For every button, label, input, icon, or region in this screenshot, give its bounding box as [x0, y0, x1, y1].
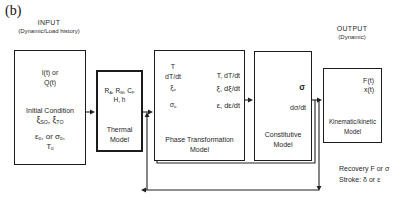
kinematic-model-box: F(t) x(t) Kinematic/kinetic Model — [323, 68, 382, 143]
thermal-model-label-line-2: Model — [98, 135, 141, 144]
phase-output-strain: ε, dε/dt — [190, 101, 240, 110]
output-notes: Recovery F or σ Stroke: δ or ε — [339, 163, 389, 185]
arrowhead-feedback-left — [141, 188, 146, 193]
input-signal-line-2: Q(t) — [15, 78, 85, 87]
initial-strain-stress: εo, or σo, — [15, 132, 85, 141]
constitutive-model-label-line-2: Model — [255, 140, 311, 149]
thermal-model-box: RA, RM, CP H, h Thermal Model — [96, 70, 143, 152]
phase-input-xi-initial: ξo — [159, 83, 187, 92]
thermal-model-label-line-1: Thermal — [98, 125, 141, 134]
constitutive-model-label-line-1: Constitutive — [255, 130, 311, 139]
arrowhead-phase-to-constitutive — [248, 98, 253, 103]
output-section-label: OUTPUT (Dynamic) — [320, 25, 384, 40]
output-title: OUTPUT — [320, 25, 384, 32]
constitutive-output-sigma: σ — [299, 83, 305, 92]
kinematic-model-label-line-2: Model — [324, 127, 381, 136]
phase-model-label-line-1: Phase Transformation — [155, 135, 244, 144]
phase-input-sigma-initial: σo — [159, 100, 187, 109]
kinematic-output-force: F(t) — [363, 76, 374, 85]
phase-output-xi: ξ, dξ/dt — [190, 84, 240, 93]
phase-input-temperature-rate: dT/dt — [159, 72, 187, 81]
kinematic-model-label-line-1: Kinematic/kinetic — [324, 117, 381, 126]
kinematic-output-displacement: x(t) — [364, 85, 374, 94]
input-subtitle: (Dynamic/Load history) — [4, 28, 94, 34]
input-box: I(t) or Q(t) Initial Condition ξSO, ξTO … — [14, 50, 86, 165]
constitutive-output-sigma-rate: dσ/dt — [290, 103, 306, 112]
input-signal-line-1: I(t) or — [15, 68, 85, 77]
output-subtitle: (Dynamic) — [320, 34, 384, 40]
phase-model-label-line-2: Model — [155, 145, 244, 154]
figure-label: (b) — [5, 3, 21, 19]
input-title: INPUT — [4, 19, 94, 26]
arrowhead-input-to-thermal — [90, 110, 95, 115]
initial-phase-fractions: ξSO, ξTO — [15, 116, 85, 125]
phase-input-temperature: T — [159, 62, 187, 71]
input-section-label: INPUT (Dynamic/Load history) — [4, 19, 94, 34]
arrowhead-thermal-to-phase — [148, 110, 153, 115]
thermal-params-line-2: H, h — [98, 95, 141, 104]
stroke-note: Stroke: δ or ε — [339, 174, 389, 185]
phase-output-temperature: T, dT/dt — [190, 71, 240, 80]
constitutive-model-box: σ dσ/dt Constitutive Model — [254, 51, 312, 161]
diagram-canvas: (b) INPUT (Dynamic/Load history) I(t) or… — [0, 0, 401, 202]
thermal-params-line-1: RA, RM, CP — [98, 86, 141, 95]
phase-transformation-model-box: T dT/dt ξo σo T, dT/dt ξ, dξ/dt ε, dε/dt… — [154, 50, 245, 161]
recovery-note: Recovery F or σ — [339, 163, 389, 174]
initial-condition-label: Initial Condition — [15, 106, 85, 115]
initial-temperature: To — [15, 142, 85, 151]
